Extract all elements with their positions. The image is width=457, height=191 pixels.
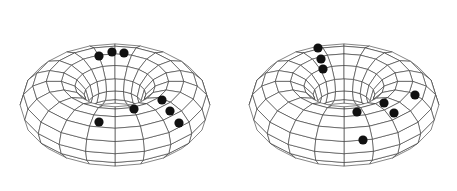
mesh-face xyxy=(115,79,125,92)
mesh-face xyxy=(87,126,115,141)
marker-dot xyxy=(129,104,138,113)
mesh-face xyxy=(106,79,116,92)
mesh-face xyxy=(395,71,413,82)
marker-dot xyxy=(389,108,398,117)
tori-diagram xyxy=(0,0,457,191)
mesh-face xyxy=(344,126,372,141)
marker-dot xyxy=(410,90,419,99)
mesh-face xyxy=(275,71,293,82)
mesh-face xyxy=(46,71,64,82)
mesh-face xyxy=(335,79,345,92)
marker-dot xyxy=(316,54,325,63)
marker-dot xyxy=(94,51,103,60)
marker-dot xyxy=(174,118,183,127)
torus-left xyxy=(20,44,210,166)
mesh-face xyxy=(115,91,125,101)
mesh-face xyxy=(106,91,116,101)
marker-dot xyxy=(107,47,116,56)
mesh-face xyxy=(316,126,344,141)
marker-dot xyxy=(352,107,361,116)
mesh-face xyxy=(115,126,143,141)
mesh-face xyxy=(335,91,345,101)
marker-dot xyxy=(165,106,174,115)
marker-dot xyxy=(379,98,388,107)
marker-dot xyxy=(358,135,367,144)
marker-dot xyxy=(157,95,166,104)
marker-dot xyxy=(318,64,327,73)
figure xyxy=(0,0,457,191)
mesh-face xyxy=(166,71,184,82)
torus-right xyxy=(249,43,439,166)
mesh-face xyxy=(344,79,354,92)
marker-dot xyxy=(94,117,103,126)
marker-dot xyxy=(119,48,128,57)
marker-dot xyxy=(313,43,322,52)
mesh-face xyxy=(344,91,354,101)
